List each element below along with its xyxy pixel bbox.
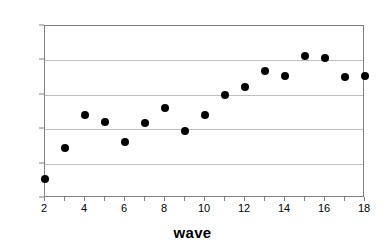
y-axis-tick-mark (39, 25, 44, 26)
x-axis-tick-mark (364, 197, 365, 201)
x-axis-tick-mark (124, 197, 125, 201)
x-axis-tick-mark (204, 197, 205, 201)
x-axis-tick-mark (264, 197, 265, 201)
data-point (221, 91, 229, 99)
data-point (101, 118, 109, 126)
x-axis-tick-label: 2 (29, 203, 59, 214)
data-point (181, 127, 189, 135)
x-axis-tick-mark (84, 197, 85, 201)
x-axis-tick-label: 10 (189, 203, 219, 214)
gridline (45, 95, 363, 96)
x-axis-tick-mark (104, 197, 105, 201)
data-point (41, 175, 49, 183)
x-axis-tick-label: 14 (269, 203, 299, 214)
x-axis-tick-label: 16 (309, 203, 339, 214)
data-point (341, 73, 349, 81)
x-axis-tick-mark (304, 197, 305, 201)
data-point (361, 72, 369, 80)
y-axis-tick-mark (39, 59, 44, 60)
y-axis-tick-mark (39, 128, 44, 129)
data-point (281, 72, 289, 80)
scatter-chart: 0,250,300,350,400,450,50 24681012141618 … (0, 0, 385, 249)
x-axis-tick-mark (64, 197, 65, 201)
data-point (261, 67, 269, 75)
x-axis-tick-mark (44, 197, 45, 201)
data-point (301, 52, 309, 60)
x-axis-tick-mark (344, 197, 345, 201)
y-axis-tick-mark (39, 162, 44, 163)
x-axis-title: wave (0, 224, 385, 241)
x-axis-tick-mark (224, 197, 225, 201)
x-axis-tick-label: 12 (229, 203, 259, 214)
x-axis-tick-mark (144, 197, 145, 201)
data-point (121, 138, 129, 146)
data-point (161, 104, 169, 112)
x-axis-tick-mark (244, 197, 245, 201)
data-point (81, 111, 89, 119)
x-axis-tick-mark (184, 197, 185, 201)
x-axis-tick-label: 6 (109, 203, 139, 214)
data-point (141, 119, 149, 127)
x-axis-tick-label: 18 (349, 203, 379, 214)
data-point (61, 144, 69, 152)
x-axis-tick-mark (324, 197, 325, 201)
x-axis-tick-label: 8 (149, 203, 179, 214)
x-axis-tick-label: 4 (69, 203, 99, 214)
gridline (45, 60, 363, 61)
x-axis-tick-mark (164, 197, 165, 201)
gridline (45, 129, 363, 130)
y-axis-tick-mark (39, 93, 44, 94)
plot-area (44, 25, 364, 197)
gridline (45, 164, 363, 165)
data-point (201, 111, 209, 119)
data-point (241, 83, 249, 91)
x-axis-tick-mark (284, 197, 285, 201)
